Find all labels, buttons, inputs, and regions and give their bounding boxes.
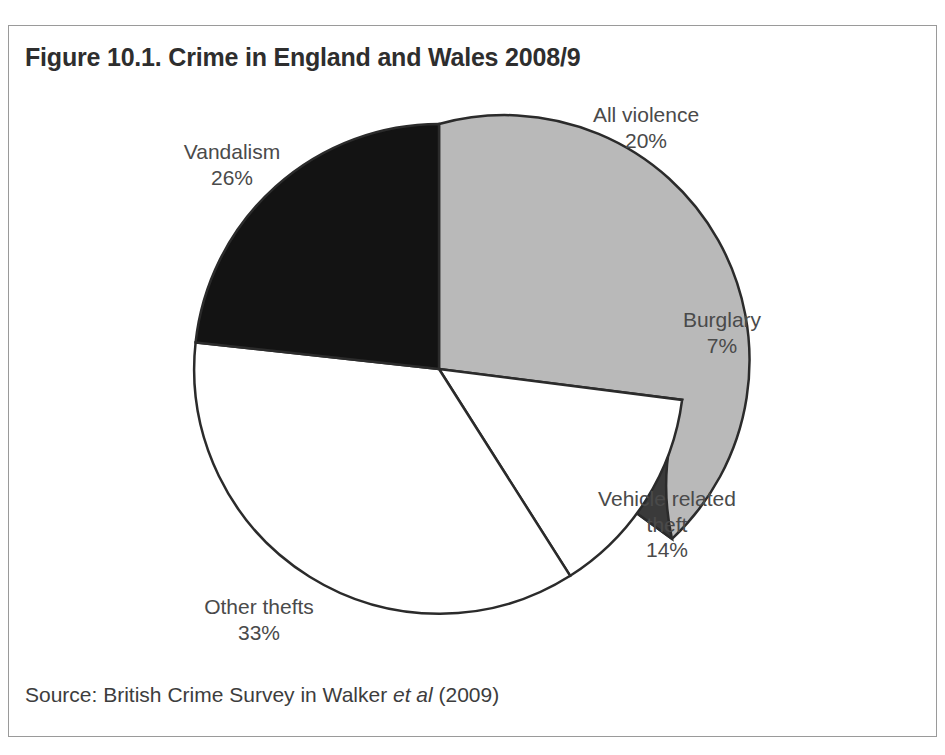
- source-note-year: (2009): [433, 683, 500, 706]
- source-note-prefix: Source: British Crime Survey in Walker: [25, 683, 393, 706]
- pie-label-other-thefts: Other thefts 33%: [149, 594, 369, 645]
- source-note: Source: British Crime Survey in Walker e…: [25, 683, 499, 707]
- pie-label-vandalism-name: Vandalism: [137, 139, 327, 165]
- pie-label-all-violence: All violence 20%: [551, 102, 741, 153]
- pie-label-other-thefts-name: Other thefts: [149, 594, 369, 620]
- pie-label-vandalism: Vandalism 26%: [137, 139, 327, 190]
- figure-container: Figure 10.1. Crime in England and Wales …: [8, 25, 937, 737]
- source-note-et-al: et al: [393, 683, 433, 706]
- pie-label-vehicle-related-theft: Vehicle related theft 14%: [567, 486, 767, 563]
- pie-label-vehicle-related-theft-percent: 14%: [567, 537, 767, 563]
- pie-label-vehicle-related-theft-name-line2: theft: [567, 512, 767, 538]
- pie-label-burglary: Burglary 7%: [627, 307, 817, 358]
- pie-label-all-violence-percent: 20%: [551, 128, 741, 154]
- pie-label-burglary-name: Burglary: [627, 307, 817, 333]
- pie-label-other-thefts-percent: 33%: [149, 620, 369, 646]
- pie-label-vehicle-related-theft-name-line1: Vehicle related: [567, 486, 767, 512]
- pie-label-all-violence-name: All violence: [551, 102, 741, 128]
- pie-label-burglary-percent: 7%: [627, 333, 817, 359]
- pie-chart: All violence 20% Vandalism 26% Burglary …: [9, 26, 938, 738]
- pie-label-vandalism-percent: 26%: [137, 165, 327, 191]
